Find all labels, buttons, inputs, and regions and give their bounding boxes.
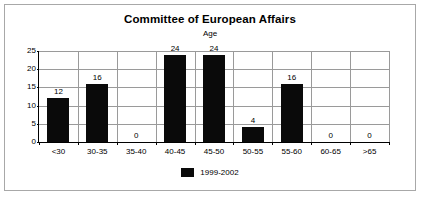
chart-title: Committee of European Affairs: [5, 13, 415, 25]
bar: [47, 98, 69, 142]
y-axis-tick-label: 0: [8, 138, 36, 146]
y-axis-tick-label: 5: [8, 120, 36, 128]
bar-value-label: 0: [134, 132, 138, 140]
chart-category-30: 12<30: [39, 51, 78, 142]
chart-category-55-60: 1655-60: [272, 51, 311, 142]
x-axis-tick-mark: [233, 142, 234, 145]
chart-category-50-55: 450-55: [233, 51, 272, 142]
chart-category-40-45: 2440-45: [156, 51, 195, 142]
chart-category-60-65: 060-65: [311, 51, 350, 142]
bar-value-label: 24: [171, 45, 180, 53]
x-axis-tick-label: 50-55: [243, 147, 263, 156]
legend-label-1999-2002: 1999-2002: [200, 169, 238, 177]
bar: [242, 127, 264, 142]
y-axis-tick-label: 25: [8, 47, 36, 55]
x-axis-tick-label: 30-35: [87, 147, 107, 156]
x-axis-tick-label: 45-50: [204, 147, 224, 156]
x-axis-tick-label: 60-65: [320, 147, 340, 156]
chart-subtitle: Age: [5, 29, 415, 38]
bar-value-label: 16: [287, 74, 296, 82]
bar-value-label: 16: [93, 74, 102, 82]
x-axis-tick-mark: [117, 142, 118, 145]
chart-category-30-35: 1630-35: [78, 51, 117, 142]
plot-area: 0510152025 12<301630-35035-402440-452445…: [38, 51, 389, 143]
y-axis-tick-label: 15: [8, 83, 36, 91]
x-axis-tick-label: 55-60: [282, 147, 302, 156]
chart-legend: 1999-2002: [5, 168, 415, 177]
x-axis-tick-label: >65: [363, 147, 377, 156]
x-axis-tick-mark: [389, 142, 390, 145]
x-axis-tick-mark: [156, 142, 157, 145]
x-axis-tick-mark: [311, 142, 312, 145]
x-axis-tick-label: 35-40: [126, 147, 146, 156]
x-axis-tick-mark: [272, 142, 273, 145]
bar-value-label: 0: [367, 132, 371, 140]
chart-category-65: 0>65: [350, 51, 389, 142]
chart-category-35-40: 035-40: [117, 51, 156, 142]
bar-value-label: 12: [54, 88, 63, 96]
chart-frame: Committee of European Affairs Age 051015…: [4, 4, 416, 191]
x-axis-tick-label: 40-45: [165, 147, 185, 156]
bar: [164, 55, 186, 142]
x-axis-tick-mark: [39, 142, 40, 145]
chart-category-45-50: 2445-50: [195, 51, 234, 142]
legend-swatch-1999-2002: [181, 168, 194, 177]
bar-value-label: 24: [210, 45, 219, 53]
y-axis-tick-label: 10: [8, 102, 36, 110]
bar-value-label: 4: [251, 117, 255, 125]
bar: [86, 84, 108, 142]
gridline-vertical: [389, 51, 390, 142]
bar-value-label: 0: [328, 132, 332, 140]
x-axis-tick-label: <30: [52, 147, 66, 156]
bar: [281, 84, 303, 142]
x-axis-tick-mark: [350, 142, 351, 145]
y-axis-tick-label: 20: [8, 65, 36, 73]
bar: [203, 55, 225, 142]
x-axis-tick-mark: [195, 142, 196, 145]
x-axis-tick-mark: [78, 142, 79, 145]
